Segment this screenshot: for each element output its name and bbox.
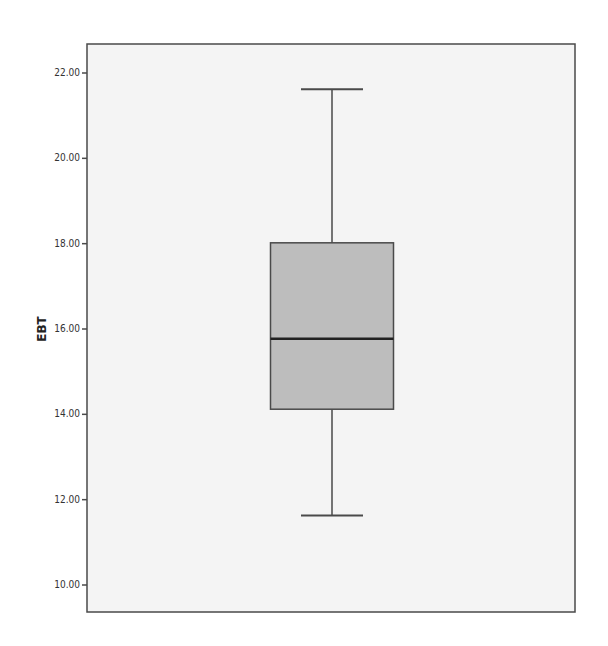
y-axis-label: EBT	[35, 315, 49, 341]
boxplot-chart: 10.0012.0014.0016.0018.0020.0022.00 EBT	[0, 0, 608, 646]
y-axis: 10.0012.0014.0016.0018.0020.0022.00	[54, 67, 87, 590]
y-tick-label: 16.00	[54, 323, 80, 334]
iqr-box	[271, 243, 394, 409]
y-tick-label: 18.00	[54, 238, 80, 249]
y-tick-label: 12.00	[54, 494, 80, 505]
y-tick-label: 20.00	[54, 152, 80, 163]
y-tick-label: 10.00	[54, 579, 80, 590]
y-tick-label: 22.00	[54, 67, 80, 78]
y-tick-label: 14.00	[54, 408, 80, 419]
